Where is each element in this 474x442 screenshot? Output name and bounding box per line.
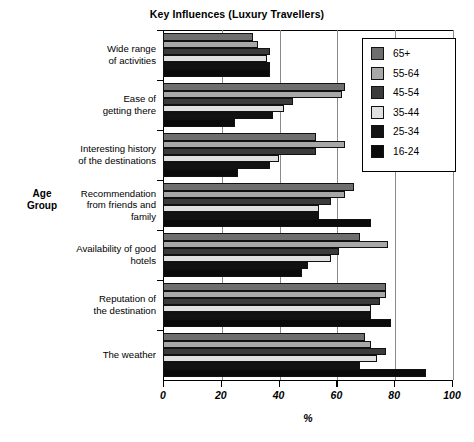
bar <box>163 291 386 298</box>
y-axis-category-label-line: hotels <box>8 255 156 267</box>
bar <box>163 362 360 369</box>
bar <box>163 312 371 319</box>
y-axis-category-label: Reputation ofthe destination <box>8 293 156 316</box>
legend-swatch <box>371 86 384 99</box>
bar <box>163 105 284 112</box>
bar <box>163 48 270 55</box>
bar <box>163 319 391 326</box>
bar <box>163 298 380 305</box>
legend-label: 45-54 <box>393 86 419 99</box>
bar <box>163 183 354 190</box>
y-axis-category-label-line: from friends and <box>8 199 156 211</box>
legend-label: 25-34 <box>393 125 419 138</box>
x-axis-tick <box>394 380 395 387</box>
bar <box>163 198 331 205</box>
bar <box>163 98 293 105</box>
bar <box>163 91 342 98</box>
y-axis-category-label-line: Reputation of <box>8 293 156 305</box>
bar <box>163 369 426 376</box>
bar <box>163 341 371 348</box>
bar <box>163 305 371 312</box>
y-axis-tick <box>157 130 164 131</box>
bar <box>163 62 270 69</box>
bar <box>163 169 238 176</box>
y-axis-tick <box>157 230 164 231</box>
legend-label: 55-64 <box>393 67 419 80</box>
y-axis-category-label: Interesting historyof the destinations <box>8 143 156 166</box>
legend-swatch <box>371 145 384 158</box>
x-axis-tick <box>452 380 453 387</box>
bar <box>163 33 253 40</box>
bar <box>163 141 345 148</box>
y-axis-category-label-line: the destination <box>8 305 156 317</box>
bar <box>163 283 386 290</box>
y-axis-category-label-line: of the destinations <box>8 155 156 167</box>
y-axis-category-label-line: Wide range <box>8 43 156 55</box>
y-axis-category-label-line: family <box>8 211 156 223</box>
x-axis-tick-label: 20 <box>201 389 241 401</box>
bar <box>163 162 270 169</box>
x-axis-tick-label: 40 <box>259 389 299 401</box>
bar <box>163 248 339 255</box>
bar <box>163 255 331 262</box>
bar <box>163 212 319 219</box>
y-axis-tick <box>157 330 164 331</box>
y-axis-category-label-line: Availability of good <box>8 243 156 255</box>
y-axis-tick <box>157 80 164 81</box>
x-axis-tick <box>279 380 280 387</box>
legend-label: 35-44 <box>393 106 419 119</box>
bar <box>163 41 258 48</box>
bar <box>163 205 319 212</box>
x-axis-tick-label: 100 <box>432 389 472 401</box>
bar <box>163 333 365 340</box>
legend-label: 16-24 <box>393 145 419 158</box>
x-axis-tick <box>336 380 337 387</box>
bar <box>163 69 270 76</box>
legend-swatch <box>371 47 384 60</box>
bar <box>163 241 388 248</box>
bar <box>163 191 345 198</box>
bar-chart: Key Influences (Luxury Travellers) 02040… <box>0 0 474 442</box>
legend-swatch <box>371 106 384 119</box>
x-axis-line <box>163 380 453 381</box>
bar <box>163 148 316 155</box>
chart-title: Key Influences (Luxury Travellers) <box>0 8 474 20</box>
y-axis-category-label-line: of activities <box>8 55 156 67</box>
bar <box>163 262 308 269</box>
y-axis-tick <box>157 180 164 181</box>
y-axis-category-label-line: Recommendation <box>8 188 156 200</box>
bar <box>163 55 267 62</box>
x-axis-tick <box>221 380 222 387</box>
y-axis-category-label-line: The weather <box>8 349 156 361</box>
x-axis-tick-label: 0 <box>143 389 183 401</box>
x-axis-tick-label: 80 <box>374 389 414 401</box>
x-axis-tick-label: 60 <box>316 389 356 401</box>
y-axis-category-label-line: getting there <box>8 105 156 117</box>
x-axis-tick <box>163 380 164 387</box>
bar <box>163 83 345 90</box>
bar <box>163 219 371 226</box>
y-axis-category-label-line: Ease of <box>8 93 156 105</box>
bar <box>163 119 235 126</box>
legend: 65+55-6445-5435-4425-3416-24 <box>362 38 456 172</box>
y-axis-category-label-line: Interesting history <box>8 143 156 155</box>
bar <box>163 112 273 119</box>
legend-label: 65+ <box>393 47 410 60</box>
x-axis-title: % <box>163 412 453 424</box>
legend-swatch <box>371 125 384 138</box>
y-axis-tick <box>157 280 164 281</box>
bar <box>163 155 279 162</box>
y-axis-tick <box>157 30 164 31</box>
y-axis-category-label: Availability of goodhotels <box>8 243 156 266</box>
y-axis-category-label: Wide rangeof activities <box>8 43 156 66</box>
y-axis-category-label: The weather <box>8 349 156 361</box>
bar <box>163 233 360 240</box>
bar <box>163 269 302 276</box>
bar <box>163 348 386 355</box>
bar <box>163 133 316 140</box>
y-axis-category-label: Ease ofgetting there <box>8 93 156 116</box>
y-axis-category-label: Recommendationfrom friends andfamily <box>8 188 156 223</box>
bar <box>163 355 377 362</box>
legend-swatch <box>371 67 384 80</box>
